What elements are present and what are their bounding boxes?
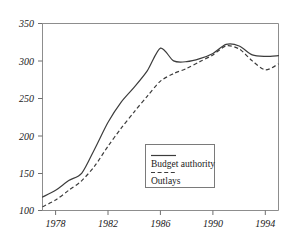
- chart-background: [0, 0, 290, 247]
- legend-label-outlays: Outlays: [151, 176, 181, 186]
- y-axis-label-100: 100: [19, 205, 34, 216]
- chart-legend: Budget authority Outlays: [146, 145, 216, 188]
- y-axis-label-250: 250: [19, 93, 34, 104]
- line-chart: 350 300 250 200 150 100 1978 1982 1986 1…: [0, 0, 290, 247]
- x-axis-label-1978: 1978: [46, 218, 66, 229]
- y-axis-label-350: 350: [18, 18, 34, 29]
- x-axis-label-1982: 1982: [98, 218, 118, 229]
- y-axis-label-300: 300: [18, 56, 34, 67]
- y-axis-label-150: 150: [19, 168, 34, 179]
- x-axis-label-1994: 1994: [255, 218, 275, 229]
- chart-container: 350 300 250 200 150 100 1978 1982 1986 1…: [0, 0, 290, 247]
- y-axis-label-200: 200: [19, 131, 34, 142]
- legend-label-budget-authority: Budget authority: [151, 159, 215, 169]
- x-axis-label-1990: 1990: [203, 218, 223, 229]
- x-axis-label-1986: 1986: [150, 218, 170, 229]
